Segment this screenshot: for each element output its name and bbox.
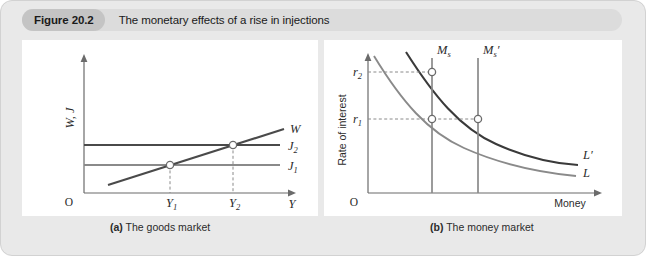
x-axis-arrow-b	[594, 190, 602, 197]
caption-text-a: The goods market	[126, 221, 211, 233]
caption-goods-market: (a) The goods market	[110, 221, 210, 233]
figure-number-pill: Figure 20.2	[22, 9, 105, 31]
equilibrium-point-y2	[229, 141, 236, 148]
tick-label-r1: r1	[353, 112, 362, 128]
x-axis-arrow-a	[288, 190, 296, 197]
curve-label-j2: J2	[288, 139, 299, 155]
curve-label-w: W	[290, 122, 302, 136]
chart-panel-money-market: Rate of interest O Money Ms Ms′ L′ L r2 …	[324, 40, 622, 216]
caption-tag-b: (b)	[430, 221, 443, 233]
figure-card: Figure 20.2 The monetary effects of a ri…	[0, 0, 646, 256]
equilibrium-point-y1	[166, 161, 173, 168]
figure-number-label: Figure 20.2	[34, 14, 94, 26]
tick-label-y2: Y2	[229, 196, 241, 212]
figure-title-bar: Figure 20.2 The monetary effects of a ri…	[22, 9, 622, 31]
caption-tag-a: (a)	[110, 221, 123, 233]
equilibrium-point-r1-ms	[428, 115, 435, 122]
tick-label-y1: Y1	[166, 196, 177, 212]
x-axis-label-a: Y	[289, 197, 298, 211]
chart-panel-goods-market: W, J O Y W J2 J1 Y1 Y2	[22, 40, 318, 216]
origin-label-b: O	[350, 196, 358, 208]
figure-title: The monetary effects of a rise in inject…	[119, 14, 330, 26]
y-axis-arrow-b	[365, 53, 372, 61]
caption-money-market: (b) The money market	[430, 221, 534, 233]
label-ms-prime: Ms′	[482, 43, 500, 59]
y-axis-label-a: W, J	[63, 106, 77, 129]
label-ms: Ms	[436, 43, 451, 59]
money-market-plot: Rate of interest O Money Ms Ms′ L′ L r2 …	[324, 40, 622, 216]
equilibrium-point-r1-ms-prime	[474, 115, 481, 122]
origin-label-a: O	[65, 196, 73, 208]
curve-label-l: L	[582, 166, 590, 180]
y-axis-label-b: Rate of interest	[336, 94, 348, 165]
curve-label-j1: J1	[288, 159, 298, 175]
equilibrium-point-r2-ms	[428, 68, 435, 75]
y-axis-arrow-a	[81, 54, 88, 62]
tick-label-r2: r2	[353, 65, 363, 81]
curve-label-l-prime: L′	[582, 148, 593, 162]
axes-group-a	[81, 54, 296, 196]
goods-market-plot: W, J O Y W J2 J1 Y1 Y2	[22, 40, 318, 216]
caption-text-b: The money market	[446, 221, 534, 233]
curve-w-line	[108, 129, 284, 185]
x-axis-label-b: Money	[554, 197, 586, 209]
